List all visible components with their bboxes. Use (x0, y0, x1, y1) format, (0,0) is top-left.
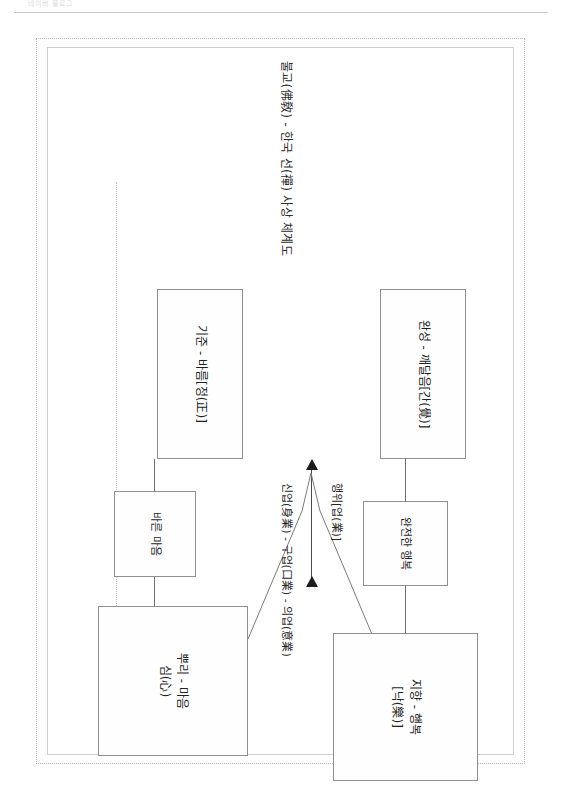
connector-rightmind-to-root (154, 577, 155, 606)
box-label-line2: [낙(樂)] (388, 679, 405, 735)
connector-perfect-to-completion (405, 459, 406, 501)
chevron-funnel-shape (246, 471, 376, 641)
box-standard[interactable]: 기준 - 바름[정(正)] (157, 289, 243, 459)
connector-perfect-to-aim (405, 586, 406, 633)
box-aim-happiness[interactable]: 지향 - 행복 [낙(樂)] (333, 633, 478, 781)
box-label: 바른 마음 (147, 512, 163, 556)
box-label-line1: 뿌리 - 마음 (173, 653, 190, 709)
box-label: 완성 - 깨달음[간(覺)] (414, 320, 431, 429)
connector-rightmind-to-standard (154, 459, 155, 491)
box-completion[interactable]: 완성 - 깨달음[간(覺)] (380, 289, 466, 459)
label-three-karmas: 신업(身業) - 구업(口業) - 의업(意業) (280, 483, 296, 657)
page-title: 불교(佛敎) - 한국 선(禪) 사상 체계도 (279, 61, 296, 256)
box-label: 완전한 행복 (397, 517, 413, 571)
box-label: 기준 - 바름[정(正)] (191, 325, 208, 423)
box-right-mind[interactable]: 바른 마음 (114, 491, 196, 577)
arrow-head-icon (306, 459, 318, 470)
page-header: 네이버 블로그 (0, 0, 561, 18)
box-perfect-happiness[interactable]: 완전한 행복 (363, 501, 448, 586)
label-action: 행위[업(業)] (330, 483, 346, 541)
diagram-canvas: 불교(佛敎) - 한국 선(禪) 사상 체계도 행위[업(業)] 신업(身業) … (66, 51, 496, 751)
header-watermark: 네이버 블로그 (28, 0, 73, 8)
box-root-mind[interactable]: 뿌리 - 마음 심(心) (98, 606, 248, 756)
box-label-line1: 지향 - 행복 (405, 679, 422, 735)
box-label-line2: 심(心) (155, 653, 172, 709)
header-divider (14, 12, 548, 13)
